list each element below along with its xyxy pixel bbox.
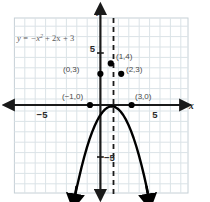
y-tick-label-5: 5 — [90, 43, 96, 54]
point-marker-1-4 — [108, 60, 114, 66]
x-tick-label-neg5: −5 — [37, 109, 49, 120]
label-point-neg1-0: (−1,0) — [62, 92, 83, 101]
point-marker-2-3 — [118, 71, 124, 77]
graph-canvas: y=−x2+ 2x+ 3 (0,3) (1,4) (2,3) (−1,0) (3… — [0, 0, 210, 202]
equation-equals: = — [23, 33, 28, 43]
equation-term1-base: −x — [31, 33, 41, 43]
point-marker-3-0 — [129, 102, 135, 108]
x-tick-label-5: 5 — [152, 109, 158, 120]
label-point-2-3: (2,3) — [126, 65, 143, 74]
equation-term3: + 3 — [63, 33, 74, 43]
y-tick-label-neg5: −5 — [104, 152, 116, 163]
curve-arrow-right — [146, 186, 148, 196]
point-marker-neg1-0 — [87, 102, 93, 108]
label-point-3-0: (3,0) — [135, 92, 152, 101]
equation-term2: + 2x — [45, 33, 61, 43]
parabola-graph-figure: y=−x2+ 2x+ 3 (0,3) (1,4) (2,3) (−1,0) (3… — [0, 0, 210, 202]
label-point-0-3: (0,3) — [63, 65, 80, 74]
point-marker-0-3 — [97, 71, 103, 77]
y-axis-label: y — [96, 6, 102, 16]
equation-term1-exponent: 2 — [40, 33, 43, 39]
x-axis-label: x — [188, 101, 194, 111]
equation-annotation: y=−x2+ 2x+ 3 — [16, 33, 74, 43]
equation-lhs: y — [16, 33, 21, 43]
label-point-1-4: (1,4) — [116, 52, 133, 61]
curve-arrow-left — [75, 186, 77, 196]
